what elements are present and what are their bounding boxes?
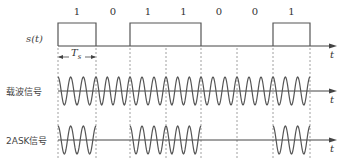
bit-label: 1 xyxy=(180,6,186,17)
time-axis-label-signal: t xyxy=(330,49,334,60)
signal-pulse xyxy=(273,23,310,46)
ask-label: 2ASK信号 xyxy=(6,134,48,147)
carrier-label: 载波信号 xyxy=(6,85,42,98)
bit-label: 0 xyxy=(216,6,222,17)
arrow-icon xyxy=(58,55,63,59)
bit-label: 1 xyxy=(145,6,151,17)
arrow-icon xyxy=(91,55,96,59)
arrow-icon xyxy=(329,44,337,49)
time-axis-label-carrier: t xyxy=(330,94,334,105)
arrow-icon xyxy=(329,89,337,94)
arrow-icon xyxy=(329,138,337,143)
bit-label: 0 xyxy=(252,6,258,17)
signal-label: s(t) xyxy=(26,33,43,44)
signal-pulse xyxy=(130,23,201,46)
bit-label: 1 xyxy=(74,6,80,17)
bit-period-label: Ts xyxy=(71,47,81,61)
bit-label: 1 xyxy=(288,6,294,17)
waveform-canvas xyxy=(0,0,347,165)
bit-label: 0 xyxy=(110,6,116,17)
time-axis-label-ask: t xyxy=(330,143,334,154)
2ask-modulation-diagram: 1011001 s(t) 载波信号 2ASK信号 t t t Ts xyxy=(0,0,347,165)
signal-pulse xyxy=(58,23,96,46)
